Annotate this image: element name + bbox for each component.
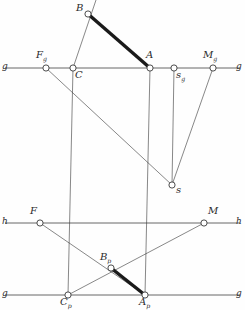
line-Fg-to-s-ray bbox=[46, 68, 172, 185]
point-label-B: B bbox=[76, 3, 83, 13]
point-label-F: F bbox=[30, 206, 37, 216]
point-label-sg: sg bbox=[176, 70, 185, 82]
point-marker-Fg bbox=[43, 65, 49, 71]
point-marker-s bbox=[169, 182, 175, 188]
point-label-Ap: Ap bbox=[139, 297, 150, 309]
axis-label-left-g-lower: g bbox=[2, 289, 8, 298]
point-marker-Bp bbox=[108, 265, 114, 271]
line-M-to-Cp bbox=[68, 223, 204, 295]
point-label-Cp: Cp bbox=[60, 297, 72, 309]
point-label-M: M bbox=[208, 206, 218, 216]
axis-label-right-g-lower: g bbox=[236, 289, 242, 298]
axis-label-left-g-upper: g bbox=[2, 62, 8, 71]
point-marker-Mg bbox=[210, 65, 216, 71]
point-marker-B bbox=[85, 11, 91, 17]
construction-canvas bbox=[0, 0, 245, 310]
point-label-C: C bbox=[75, 70, 83, 80]
point-label-s: s bbox=[176, 185, 181, 195]
line-Mg-to-s bbox=[172, 68, 213, 185]
point-marker-F bbox=[37, 220, 43, 226]
vertical-A-down bbox=[145, 68, 150, 295]
point-label-A: A bbox=[146, 50, 153, 60]
point-label-Mg: Mg bbox=[203, 50, 217, 62]
point-marker-A bbox=[147, 65, 153, 71]
axis-label-left-h-middle: h bbox=[2, 217, 8, 226]
segment-BA bbox=[88, 14, 150, 68]
geometry-figure: BFgCAsgMgsFMBpCpApgghhgg bbox=[0, 0, 245, 310]
segment-Bp-Ap bbox=[111, 268, 145, 295]
axis-label-right-h-middle: h bbox=[236, 217, 242, 226]
axis-label-right-g-upper: g bbox=[236, 62, 242, 71]
point-label-Fg: Fg bbox=[36, 50, 47, 62]
vertical-C-down bbox=[68, 68, 73, 295]
point-label-Bp: Bp bbox=[100, 252, 111, 264]
vertical-sg-to-s bbox=[172, 68, 174, 185]
point-marker-M bbox=[201, 220, 207, 226]
